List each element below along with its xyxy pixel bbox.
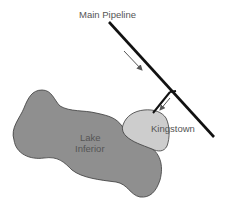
branch-pipe-cap <box>170 91 176 92</box>
pipeline-label: Main Pipeline <box>79 9 136 20</box>
town-label: Kingstown <box>151 123 195 134</box>
pipeline-diagram: Main Pipeline Kingstown Lake Inferior <box>0 0 225 208</box>
lake-label-line2: Inferior <box>75 143 105 154</box>
lake-label-line1: Lake <box>80 132 101 143</box>
branch-pipe-left <box>153 92 170 113</box>
